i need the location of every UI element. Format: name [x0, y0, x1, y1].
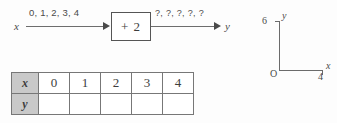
y-axis-max-tick-label: 6: [262, 15, 267, 26]
input-variable-label: x: [14, 20, 19, 32]
table-cell-y-4[interactable]: [163, 94, 194, 115]
operation-box: + 2: [111, 12, 151, 41]
input-values-label: 0, 1, 2, 3, 4: [29, 7, 79, 18]
worksheet-diagram: x 0, 1, 2, 3, 4 + 2 ?, ?, ?, ?, ? y 6 4 …: [0, 0, 337, 123]
table-row: x 0 1 2 3 4: [12, 73, 194, 94]
x-axis-label: x: [326, 60, 330, 71]
output-arrow-head-icon: [214, 22, 221, 30]
table-cell-y-2[interactable]: [101, 94, 132, 115]
input-arrow-head-icon: [103, 22, 110, 30]
table-cell-x-4[interactable]: 4: [163, 73, 194, 94]
value-table: x 0 1 2 3 4 y: [11, 72, 194, 115]
y-axis-label: y: [282, 10, 286, 21]
input-arrow-line: [26, 26, 106, 27]
output-arrow-line: [151, 26, 217, 27]
x-axis-max-tick-label: 4: [318, 71, 323, 82]
table-row-header-x: x: [12, 73, 39, 94]
y-axis-tick-mark: [275, 21, 280, 22]
output-values-label: ?, ?, ?, ?, ?: [155, 8, 204, 18]
table-row-header-y: y: [12, 94, 39, 115]
coordinate-axes: 6 4 y x O: [258, 8, 333, 80]
table-cell-y-3[interactable]: [132, 94, 163, 115]
origin-label: O: [270, 68, 277, 79]
table-row: y: [12, 94, 194, 115]
table-cell-y-0[interactable]: [39, 94, 70, 115]
table-cell-x-3[interactable]: 3: [132, 73, 163, 94]
table-cell-x-0[interactable]: 0: [39, 73, 70, 94]
x-axis-line: [279, 70, 323, 71]
operation-label: + 2: [112, 13, 150, 40]
y-axis-line: [279, 21, 280, 71]
table-cell-x-1[interactable]: 1: [70, 73, 101, 94]
table-cell-y-1[interactable]: [70, 94, 101, 115]
table-cell-x-2[interactable]: 2: [101, 73, 132, 94]
output-variable-label: y: [225, 20, 230, 32]
